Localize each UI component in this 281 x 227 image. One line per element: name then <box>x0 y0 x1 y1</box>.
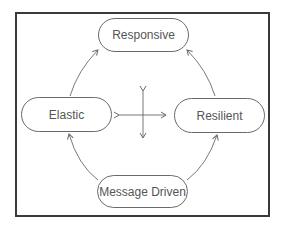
edge-elastic-to-responsive <box>70 50 98 96</box>
node-responsive: Responsive <box>98 18 189 52</box>
node-resilient: Resilient <box>174 98 265 133</box>
node-message-driven: Message Driven <box>97 175 188 208</box>
edge-message-driven-to-elastic <box>69 134 98 180</box>
edge-message-driven-to-resilient <box>187 135 217 180</box>
node-label: Message Driven <box>99 185 186 199</box>
edge-resilient-to-responsive <box>187 50 215 96</box>
node-elastic: Elastic <box>21 97 112 132</box>
node-label: Elastic <box>49 108 84 122</box>
node-label: Resilient <box>196 109 242 123</box>
node-label: Responsive <box>112 28 175 42</box>
four-way-arrow-icon <box>119 91 166 138</box>
